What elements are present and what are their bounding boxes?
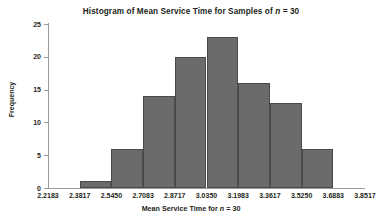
y-axis-tick-label: 0 (0, 185, 41, 192)
histogram-bar (80, 181, 112, 188)
y-axis-tick-label: 5 (0, 152, 41, 159)
x-axis-tick-label: 2.7083 (127, 192, 159, 199)
x-axis-title-prefix: Mean Service Time for (142, 204, 220, 213)
chart-title: Histogram of Mean Service Time for Sampl… (0, 7, 382, 16)
histogram-bar (207, 37, 239, 188)
histogram-bar (238, 83, 270, 188)
histogram-bar (270, 103, 302, 188)
x-axis-tick-label: 3.0350 (191, 192, 223, 199)
histogram-chart: Histogram of Mean Service Time for Sampl… (0, 0, 382, 221)
x-axis-tick-label: 2.2183 (32, 192, 64, 199)
histogram-bar (111, 149, 143, 188)
x-axis-tick-label: 3.8517 (349, 192, 381, 199)
y-axis-tick-label: 20 (0, 53, 41, 60)
histogram-bar (302, 149, 334, 188)
x-axis-tick-label: 3.6883 (317, 192, 349, 199)
x-axis-tick-label: 2.8717 (159, 192, 191, 199)
x-axis-tick-label: 3.3617 (254, 192, 286, 199)
y-axis-tick-label: 15 (0, 86, 41, 93)
chart-title-suffix: = 30 (280, 7, 299, 16)
x-axis-tick-label: 2.3817 (64, 192, 96, 199)
histogram-bar (175, 57, 207, 188)
x-axis-tick-label: 3.1983 (222, 192, 254, 199)
x-axis-line (48, 188, 365, 189)
y-axis-tick-label: 10 (0, 119, 41, 126)
histogram-bar (143, 96, 175, 188)
x-axis-tick-label: 3.5250 (286, 192, 318, 199)
x-axis-tick-label: 2.5450 (95, 192, 127, 199)
plot-area (48, 24, 365, 188)
y-axis-tick-mark (44, 188, 48, 189)
y-axis-tick-label: 25 (0, 21, 41, 28)
chart-title-prefix: Histogram of Mean Service Time for Sampl… (83, 7, 275, 16)
x-axis-title-suffix: = 30 (224, 204, 240, 213)
x-axis-title: Mean Service Time for n = 30 (0, 204, 382, 213)
